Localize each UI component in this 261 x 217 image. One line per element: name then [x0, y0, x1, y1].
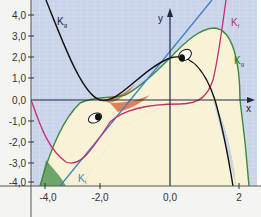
y-tick-label: -3,0 [9, 158, 27, 169]
x-tick-label: 2 [236, 192, 242, 203]
x-tick-label: -2,0 [91, 192, 109, 203]
function-graph: 4,0 3,0 2,0 1,0 0,0 -1,0 -2,0 -3,0 -4,0 … [0, 0, 261, 217]
y-tick-label: 4,0 [12, 10, 26, 21]
x-tick-label: 0,0 [163, 192, 177, 203]
x-tick-label: -4,0 [39, 192, 57, 203]
y-tick-label: 0,0 [12, 95, 26, 106]
y-tick-label: -2,0 [9, 137, 27, 148]
y-axis-label: y [158, 13, 163, 24]
y-tick-label: -4,0 [9, 177, 27, 188]
x-axis-label: x [246, 103, 251, 114]
y-tick-label: -1,0 [9, 116, 27, 127]
y-tick-label: 3,0 [12, 31, 26, 42]
y-tick-label: 2,0 [12, 52, 26, 63]
y-tick-label: 1,0 [12, 73, 26, 84]
